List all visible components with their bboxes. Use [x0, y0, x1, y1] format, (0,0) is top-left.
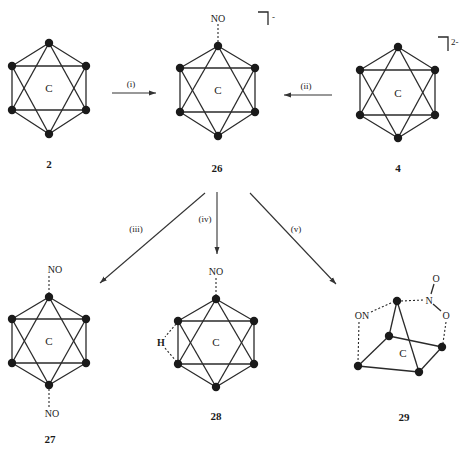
nitrosyl-substituent: NO	[211, 13, 225, 24]
reaction-arrow-iii: (iii)	[100, 193, 205, 283]
bridging-hydrogen: H	[157, 337, 165, 348]
charge-bracket	[258, 12, 268, 25]
step-label-ii: (ii)	[301, 81, 312, 91]
cluster-center-label: C	[45, 82, 52, 94]
cluster-center-label: C	[214, 84, 221, 96]
compound-number-26: 26	[212, 162, 224, 174]
oxygen-label-top: O	[432, 273, 439, 284]
nitrosyl-on-label: ON	[355, 310, 369, 321]
compound-number-4: 4	[395, 162, 401, 174]
compound-2: C 2	[8, 39, 90, 170]
nitrosyl-substituent-top: NO	[48, 264, 62, 275]
reaction-arrow-i: (i)	[112, 79, 156, 93]
nitrosyl-substituent: NO	[209, 266, 223, 277]
step-label-iii: (iii)	[129, 224, 143, 234]
cluster-center-label: C	[212, 336, 219, 348]
charge-26: -	[272, 12, 275, 22]
step-label-v: (v)	[291, 224, 302, 234]
compound-29: C ON N O O 29	[354, 273, 450, 423]
step-label-iv: (iv)	[199, 214, 212, 224]
cluster-center-label: C	[394, 87, 401, 99]
compound-4: C 2- 4	[356, 37, 459, 174]
compound-26: NO C - 26	[176, 12, 275, 174]
reaction-arrow-ii: (ii)	[284, 81, 332, 95]
cluster-center-label: C	[45, 335, 52, 347]
reaction-arrow-v: (v)	[250, 193, 336, 284]
nitrosyl-substituent-bottom: NO	[45, 408, 59, 419]
open-cluster-29	[354, 297, 446, 376]
compound-number-27: 27	[45, 433, 57, 445]
reaction-arrow-iv: (iv)	[199, 192, 218, 254]
charge-4: 2-	[451, 37, 459, 47]
compound-number-2: 2	[46, 158, 52, 170]
cluster-center-label: C	[399, 347, 406, 359]
step-label-i: (i)	[127, 79, 136, 89]
compound-27: NO C NO 27	[8, 264, 90, 445]
compound-28: NO C H 28	[157, 266, 258, 422]
oxygen-label-right: O	[442, 310, 449, 321]
compound-number-29: 29	[399, 411, 411, 423]
reaction-scheme: C 2 (i) NO C - 26 (ii	[0, 0, 465, 449]
nitrogen-label: N	[425, 295, 432, 306]
charge-bracket	[438, 37, 448, 51]
compound-number-28: 28	[211, 410, 223, 422]
